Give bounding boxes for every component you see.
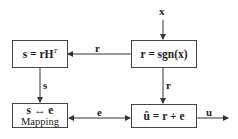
edge-label-r-left: r (95, 43, 100, 54)
input-label-x: x (159, 6, 165, 17)
syndrome-formula: s = rHT (23, 48, 58, 60)
hard-decision-block: r = sgn(x) (131, 40, 197, 68)
mapping-formula: s ↔ e (27, 104, 54, 116)
correction-block: û = r + e (131, 104, 197, 128)
edge-label-s: s (43, 80, 47, 91)
mapping-caption: Mapping (21, 116, 59, 128)
mapping-block: s ↔ e Mapping (12, 103, 68, 128)
hard-decision-formula: r = sgn(x) (140, 48, 187, 60)
output-label-u: u (206, 107, 212, 118)
edge-label-r-down: r (166, 80, 171, 91)
syndrome-block: s = rHT (12, 40, 68, 68)
edge-label-e: e (97, 107, 102, 118)
correction-formula: û = r + e (143, 110, 184, 122)
